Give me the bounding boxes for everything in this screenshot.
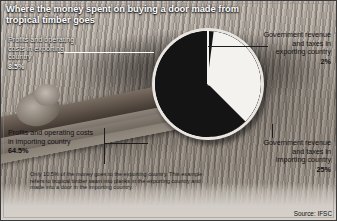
leader-line-exporting-government — [208, 46, 268, 47]
leader-line-importing-government — [272, 124, 273, 138]
callout-importing-profits-label: Profits and operating costs in importing… — [8, 128, 93, 146]
callout-importing-government-value: 25% — [261, 166, 331, 175]
page-title: Where the money spent on buying a door m… — [4, 3, 246, 28]
pie-chart — [152, 28, 264, 140]
callout-importing-government: Government revenue and taxes in importin… — [261, 139, 331, 174]
callout-importing-profits: Profits and operating costs in importing… — [8, 129, 100, 156]
log-end-secondary-image — [34, 84, 60, 106]
callout-exporting-profits: Profits and operating costs in exporting… — [8, 36, 82, 71]
callout-importing-government-label: Government revenue and taxes in importin… — [263, 138, 331, 164]
footnote-text: Only 10.5% of the money goes to the expo… — [30, 171, 210, 191]
source-credit: Source: IFSC — [294, 210, 332, 217]
infographic-figure: Where the money spent on buying a door m… — [0, 0, 337, 221]
callout-exporting-profits-value: 8.5% — [8, 63, 82, 72]
leader-line-importing-profits — [104, 143, 148, 144]
callout-exporting-government-label: Government revenue and taxes in exportin… — [263, 30, 331, 56]
leader-divider-importing-profits — [104, 128, 105, 164]
callout-importing-profits-value: 64.5% — [8, 147, 100, 156]
callout-exporting-government-value: 2% — [263, 58, 331, 67]
callout-exporting-government: Government revenue and taxes in exportin… — [263, 31, 331, 66]
callout-exporting-profits-label: Profits and operating costs in exporting… — [8, 35, 74, 61]
